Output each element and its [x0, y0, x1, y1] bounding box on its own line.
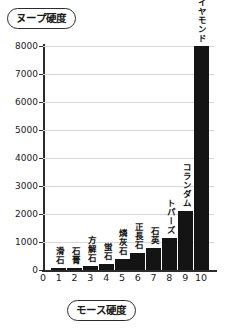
bar-group: トパーズ	[162, 46, 177, 270]
y-axis-tick	[39, 186, 43, 187]
bar-value-label: コランダム	[181, 163, 190, 208]
y-axis-tick	[39, 46, 43, 47]
y-axis-tick-label: 7000	[15, 70, 38, 79]
y-axis-tick-label: 4000	[15, 154, 38, 163]
bar	[51, 268, 66, 270]
x-axis-tick-label: 2	[72, 273, 78, 283]
x-axis-tick-label: 8	[166, 273, 172, 283]
y-axis-tick	[39, 214, 43, 215]
bar	[83, 266, 98, 270]
bar-group: 正長石	[130, 46, 145, 270]
y-axis-title: ヌープ硬度	[7, 8, 76, 29]
x-axis-tick-label: 6	[135, 273, 141, 283]
bar-group: 石膏	[67, 46, 82, 270]
bar	[99, 264, 114, 270]
bar	[130, 253, 145, 270]
y-axis-tick-label: 2000	[15, 210, 38, 219]
y-axis-tick-label: 1000	[15, 238, 38, 247]
plot-area: 010002000300040005000600070008000滑石石膏方解石…	[43, 46, 214, 270]
bar-value-label: ダイヤモンド	[197, 0, 206, 43]
y-axis-tick-label: 3000	[15, 182, 38, 191]
x-axis-tick-label: 1	[56, 273, 62, 283]
bar-value-label: 石英	[149, 227, 158, 245]
x-axis-tick-label: 4	[103, 273, 109, 283]
bar	[194, 46, 209, 270]
y-axis-tick	[39, 102, 43, 103]
bar-value-label: 石膏	[70, 247, 79, 265]
x-axis-tick-label: 10	[195, 273, 207, 283]
bar-value-label: トパーズ	[165, 199, 174, 235]
x-axis-line	[42, 270, 217, 272]
x-axis-tick-label: 9	[182, 273, 188, 283]
bar	[146, 248, 161, 270]
bar-value-label: 蛍石	[102, 243, 111, 261]
y-axis-tick	[39, 130, 43, 131]
bar-group: コランダム	[178, 46, 193, 270]
bar	[178, 211, 193, 270]
y-axis-tick-label: 0	[32, 266, 38, 275]
x-axis-tick-label: 3	[87, 273, 93, 283]
y-axis-tick	[39, 158, 43, 159]
bar	[115, 259, 130, 270]
x-axis-title: モース硬度	[67, 300, 136, 321]
bar-value-label: 正長石	[133, 223, 142, 250]
bar	[162, 238, 177, 270]
y-axis-tick-label: 8000	[15, 42, 38, 51]
bar-value-label: 滑石	[54, 247, 63, 265]
y-axis-tick	[39, 270, 43, 271]
bar-group: 燐灰石	[115, 46, 130, 270]
y-axis-tick-label: 6000	[15, 98, 38, 107]
x-axis-tick-label: 5	[119, 273, 125, 283]
bar-group: 石英	[146, 46, 161, 270]
bar-group: ダイヤモンド	[194, 46, 209, 270]
bar-value-label: 方解石	[86, 236, 95, 263]
bar-group: 滑石	[51, 46, 66, 270]
y-axis-tick	[39, 74, 43, 75]
y-axis-tick	[39, 242, 43, 243]
x-axis-tick-label: 0	[40, 273, 46, 283]
y-axis-tick-label: 5000	[15, 126, 38, 135]
x-axis-tick-label: 7	[151, 273, 157, 283]
bar-group: 方解石	[83, 46, 98, 270]
bar	[67, 268, 82, 270]
bar-value-label: 燐灰石	[118, 229, 127, 256]
bar-group: 蛍石	[99, 46, 114, 270]
chart-figure: ヌープ硬度 010002000300040005000600070008000滑…	[0, 0, 227, 329]
